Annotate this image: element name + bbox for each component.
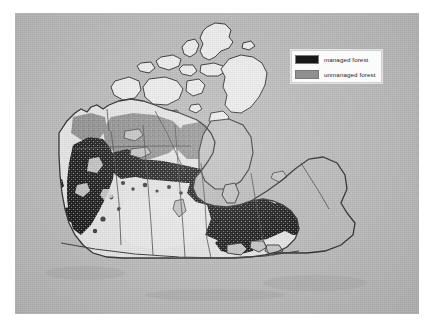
legend-swatch-unmanaged xyxy=(295,70,319,79)
map-panel: managed forest unmanaged forest xyxy=(15,13,419,314)
legend-item-unmanaged-forest: unmanaged forest xyxy=(295,68,381,81)
map-legend: managed forest unmanaged forest xyxy=(291,50,382,83)
legend-swatch-managed xyxy=(295,55,319,64)
legend-label-unmanaged: unmanaged forest xyxy=(324,70,375,79)
figure-container: managed forest unmanaged forest xyxy=(0,0,435,330)
legend-label-managed: managed forest xyxy=(324,55,368,64)
james-bay xyxy=(222,183,239,203)
legend-item-managed-forest: managed forest xyxy=(295,53,381,66)
